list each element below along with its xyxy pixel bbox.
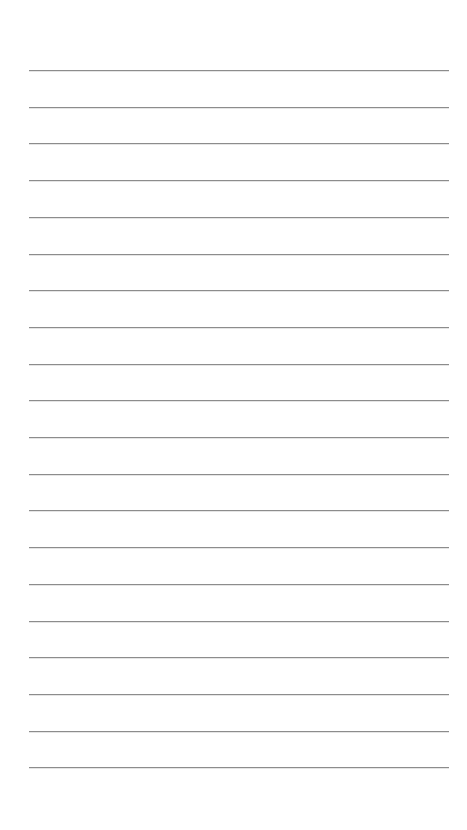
ruled-line: [29, 731, 449, 732]
ruled-line: [29, 70, 449, 71]
ruled-line: [29, 107, 449, 108]
ruled-line: [29, 400, 449, 401]
ruled-line: [29, 584, 449, 585]
ruled-line: [29, 547, 449, 548]
ruled-line: [29, 143, 449, 144]
ruled-line: [29, 290, 449, 291]
ruled-line: [29, 694, 449, 695]
ruled-line: [29, 217, 449, 218]
ruled-line: [29, 180, 449, 181]
ruled-line: [29, 327, 449, 328]
ruled-line: [29, 767, 449, 768]
ruled-line: [29, 364, 449, 365]
ruled-line: [29, 254, 449, 255]
ruled-line: [29, 657, 449, 658]
ruled-line: [29, 621, 449, 622]
ruled-line: [29, 474, 449, 475]
ruled-line: [29, 437, 449, 438]
ruled-line: [29, 510, 449, 511]
lined-paper-page: [0, 0, 467, 830]
